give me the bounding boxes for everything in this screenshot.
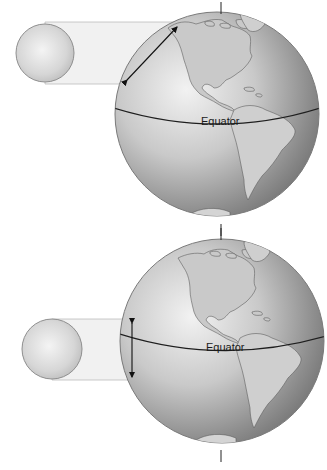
equator-label-bottom: Equator: [206, 342, 245, 353]
top-panel: [16, 2, 320, 236]
equator-label-top: Equator: [201, 116, 240, 127]
light-source-sphere: [22, 319, 82, 379]
bottom-panel: [22, 228, 326, 462]
light-source-sphere: [16, 24, 74, 82]
sun-angle-diagram: [0, 0, 327, 470]
